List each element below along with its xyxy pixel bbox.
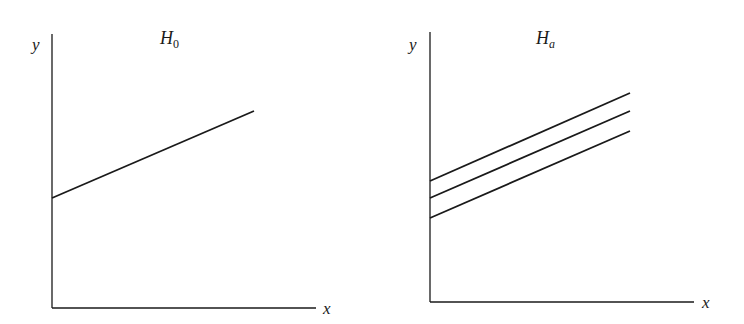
x-axis-label: x — [322, 299, 331, 318]
y-axis-label: y — [407, 35, 417, 54]
regression-line — [52, 111, 254, 198]
panel-ha: y x Ha — [407, 28, 710, 312]
panel-h0: y x H0 — [30, 28, 331, 318]
regression-line-middle — [430, 111, 630, 198]
regression-line-bottom — [430, 131, 630, 218]
hypothesis-diagram: y x H0 y x Ha — [0, 0, 744, 324]
panel-title: H0 — [159, 28, 179, 51]
regression-line-top — [430, 93, 630, 181]
panel-title: Ha — [535, 28, 555, 51]
x-axis-label: x — [701, 293, 710, 312]
y-axis-label: y — [30, 35, 40, 54]
